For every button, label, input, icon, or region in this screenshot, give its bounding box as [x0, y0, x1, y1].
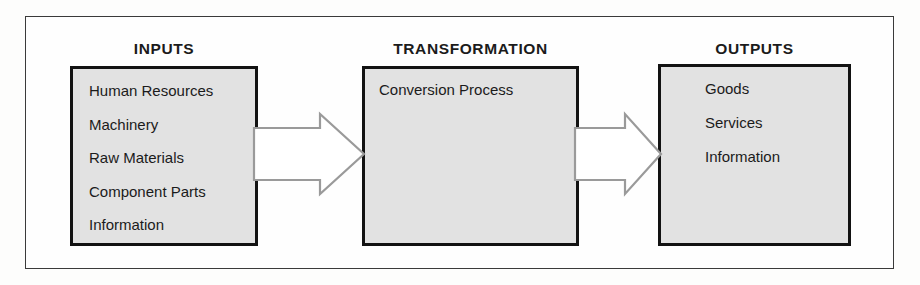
outputs-list: Goods Services Information	[661, 67, 848, 243]
transformation-box: Conversion Process	[362, 66, 579, 246]
outputs-box: Goods Services Information	[658, 64, 851, 246]
arrow-transformation-to-outputs-icon	[575, 114, 663, 194]
inputs-list: Human Resources Machinery Raw Materials …	[73, 69, 255, 243]
column-heading-inputs: INPUTS	[70, 40, 258, 58]
list-item: Information	[89, 217, 255, 232]
arrow-inputs-to-transformation-icon	[254, 114, 366, 194]
column-heading-outputs: OUTPUTS	[658, 40, 851, 58]
column-heading-transformation: TRANSFORMATION	[362, 40, 579, 58]
list-item: Raw Materials	[89, 150, 255, 165]
list-item: Services	[705, 115, 848, 130]
diagram-canvas: INPUTS TRANSFORMATION OUTPUTS Human Reso…	[0, 0, 920, 285]
transformation-list: Conversion Process	[365, 69, 576, 243]
list-item: Information	[705, 149, 848, 164]
list-item: Machinery	[89, 117, 255, 132]
list-item: Conversion Process	[379, 82, 576, 97]
list-item: Goods	[705, 81, 848, 96]
list-item: Human Resources	[89, 83, 255, 98]
list-item: Component Parts	[89, 184, 255, 199]
inputs-box: Human Resources Machinery Raw Materials …	[70, 66, 258, 246]
